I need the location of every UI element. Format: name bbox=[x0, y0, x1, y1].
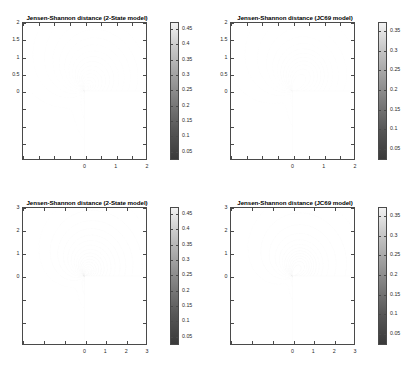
y-tick-top-right bbox=[351, 144, 354, 145]
colorbar-tick-label-bottom-left: 0.3 bbox=[182, 256, 189, 262]
x-tick-top-left bbox=[86, 156, 87, 159]
x-tick-top-left bbox=[39, 23, 40, 26]
plot-axes-top-left bbox=[22, 22, 147, 160]
y-tick-bottom-right bbox=[231, 231, 234, 232]
x-tick-bottom-right bbox=[314, 208, 315, 211]
colorbar-tick-bottom-left bbox=[176, 321, 178, 322]
colorbar-tick-top-left bbox=[171, 121, 173, 122]
x-tick-top-left bbox=[132, 23, 133, 26]
x-tick-label-bottom-left: 3 bbox=[146, 348, 149, 354]
colorbar-tick-bottom-left bbox=[176, 337, 178, 338]
colorbar-tick-bottom-left bbox=[176, 214, 178, 215]
colorbar-tick-bottom-right bbox=[379, 314, 381, 315]
x-tick-top-right bbox=[325, 156, 326, 159]
y-tick-top-left bbox=[143, 23, 146, 24]
y-tick-label-bottom-right: 3 bbox=[208, 204, 228, 210]
x-tick-top-left bbox=[23, 156, 24, 159]
colorbar-tick-top-left bbox=[176, 106, 178, 107]
colorbar-tick-label-bottom-left: 0.15 bbox=[182, 302, 192, 308]
x-tick-label-bottom-left: 1 bbox=[104, 348, 107, 354]
colorbar-tick-label-top-right: 0.2 bbox=[390, 86, 397, 92]
x-tick-top-left bbox=[117, 156, 118, 159]
contour-panel-top-left: Jensen-Shannon distance (2-State model)0… bbox=[0, 0, 208, 185]
y-tick-top-left bbox=[143, 127, 146, 128]
colorbar-tick-bottom-left bbox=[171, 321, 173, 322]
colorbar-tick-top-left bbox=[176, 75, 178, 76]
x-tick-top-left bbox=[54, 23, 55, 26]
y-tick-label-bottom-left: 1 bbox=[0, 250, 20, 256]
colorbar-tick-bottom-left bbox=[176, 245, 178, 246]
x-tick-label-bottom-right: 1 bbox=[312, 348, 315, 354]
x-tick-top-right bbox=[247, 156, 248, 159]
colorbar-tick-label-top-left: 0.05 bbox=[182, 148, 192, 154]
x-tick-bottom-left bbox=[106, 208, 107, 211]
contour-panel-top-right: Jensen-Shannon distance (JC69 model)0120… bbox=[208, 0, 416, 185]
colorbar-tick-top-left bbox=[171, 75, 173, 76]
y-tick-label-top-left: 0 bbox=[0, 88, 20, 94]
colorbar-top-right bbox=[378, 22, 387, 160]
colorbar-tick-bottom-left bbox=[171, 337, 173, 338]
colorbar-tick-label-bottom-right: 0.1 bbox=[390, 310, 397, 316]
x-tick-bottom-left bbox=[44, 341, 45, 344]
y-tick-top-left bbox=[143, 58, 146, 59]
y-tick-top-right bbox=[231, 40, 234, 41]
colorbar-tick-top-left bbox=[171, 44, 173, 45]
x-tick-top-left bbox=[101, 23, 102, 26]
contour-plot-bottom-right bbox=[231, 208, 354, 344]
colorbar-tick-label-top-left: 0.35 bbox=[182, 56, 192, 62]
colorbar-tick-top-right bbox=[384, 110, 386, 111]
x-tick-bottom-right bbox=[314, 341, 315, 344]
y-tick-bottom-left bbox=[23, 208, 26, 209]
figure-canvas: Jensen-Shannon distance (2-State model)0… bbox=[0, 0, 416, 370]
colorbar-tick-label-bottom-left: 0.45 bbox=[182, 210, 192, 216]
x-tick-top-left bbox=[70, 23, 71, 26]
colorbar-tick-label-top-right: 0.25 bbox=[390, 66, 400, 72]
colorbar-tick-top-left bbox=[176, 152, 178, 153]
x-tick-label-top-left: 1 bbox=[114, 163, 117, 169]
colorbar-tick-label-bottom-left: 0.2 bbox=[182, 287, 189, 293]
y-tick-bottom-left bbox=[143, 231, 146, 232]
y-tick-bottom-right bbox=[351, 254, 354, 255]
colorbar-tick-bottom-right bbox=[384, 334, 386, 335]
y-tick-label-top-right: 1.5 bbox=[208, 36, 228, 42]
colorbar-tick-label-top-left: 0.3 bbox=[182, 71, 189, 77]
x-tick-bottom-left bbox=[86, 208, 87, 211]
x-tick-top-right bbox=[309, 23, 310, 26]
colorbar-tick-bottom-left bbox=[176, 306, 178, 307]
x-tick-bottom-right bbox=[335, 341, 336, 344]
x-tick-top-right bbox=[262, 23, 263, 26]
y-tick-top-right bbox=[351, 40, 354, 41]
colorbar-top-left bbox=[170, 22, 179, 160]
y-tick-bottom-left bbox=[23, 300, 26, 301]
colorbar-tick-top-left bbox=[171, 136, 173, 137]
colorbar-tick-bottom-right bbox=[384, 314, 386, 315]
y-tick-bottom-left bbox=[143, 254, 146, 255]
y-tick-bottom-right bbox=[231, 277, 234, 278]
panel-title-top-right: Jensen-Shannon distance (JC69 model) bbox=[208, 14, 416, 21]
y-tick-label-top-left: 1.5 bbox=[0, 36, 20, 42]
y-tick-label-bottom-right: 0 bbox=[208, 273, 228, 279]
y-tick-bottom-right bbox=[231, 208, 234, 209]
colorbar-tick-top-right bbox=[379, 70, 381, 71]
x-tick-top-right bbox=[340, 156, 341, 159]
y-tick-top-right bbox=[351, 109, 354, 110]
colorbar-tick-bottom-right bbox=[379, 216, 381, 217]
x-tick-top-left bbox=[39, 156, 40, 159]
x-tick-bottom-left bbox=[86, 341, 87, 344]
y-tick-top-left bbox=[23, 58, 26, 59]
x-tick-top-right bbox=[278, 23, 279, 26]
x-tick-top-left bbox=[54, 156, 55, 159]
colorbar-tick-bottom-left bbox=[171, 275, 173, 276]
colorbar-tick-label-bottom-left: 0.35 bbox=[182, 241, 192, 247]
colorbar-tick-top-left bbox=[171, 106, 173, 107]
colorbar-tick-label-top-left: 0.45 bbox=[182, 25, 192, 31]
colorbar-tick-bottom-left bbox=[171, 306, 173, 307]
x-tick-top-right bbox=[340, 23, 341, 26]
x-tick-bottom-right bbox=[252, 208, 253, 211]
colorbar-tick-top-left bbox=[176, 121, 178, 122]
x-tick-top-left bbox=[86, 23, 87, 26]
x-tick-label-bottom-left: 2 bbox=[125, 348, 128, 354]
x-tick-label-top-left: 2 bbox=[146, 163, 149, 169]
y-tick-bottom-right bbox=[231, 300, 234, 301]
colorbar-tick-label-top-left: 0.2 bbox=[182, 102, 189, 108]
